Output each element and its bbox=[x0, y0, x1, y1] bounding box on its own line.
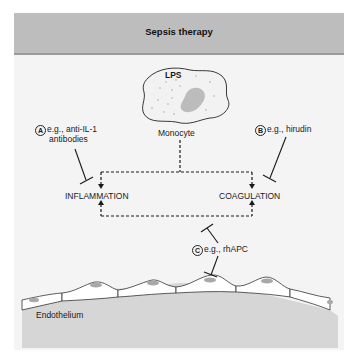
therapy-c-label: Ce.g., rhAPC bbox=[192, 244, 248, 256]
marker-c-icon: C bbox=[192, 245, 203, 256]
marker-b-icon: B bbox=[255, 125, 266, 136]
inflammation-label: INFLAMMATION bbox=[65, 191, 129, 201]
therapy-a-label-line2: antibodies bbox=[49, 134, 88, 144]
pathway-lines bbox=[101, 140, 252, 216]
therapy-b-label: Be.g., hirudin bbox=[255, 124, 311, 136]
monocyte-label: Monocyte bbox=[158, 128, 195, 138]
coagulation-label: COAGULATION bbox=[219, 191, 280, 201]
pathway-diagram bbox=[0, 0, 350, 356]
lps-label: LPS bbox=[165, 70, 182, 80]
monocyte-cell bbox=[143, 68, 229, 123]
marker-a-icon: A bbox=[35, 125, 46, 136]
endothelium-label: Endothelium bbox=[36, 310, 83, 320]
